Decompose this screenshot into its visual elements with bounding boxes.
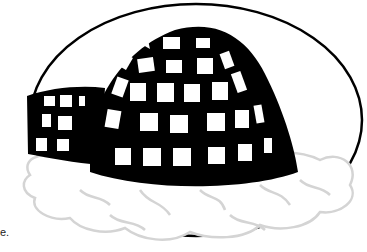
igloo-tunnel [27,87,105,165]
igloo-dome [90,27,298,187]
caption-fragment: e. [0,226,9,238]
igloo-illustration [0,0,367,252]
